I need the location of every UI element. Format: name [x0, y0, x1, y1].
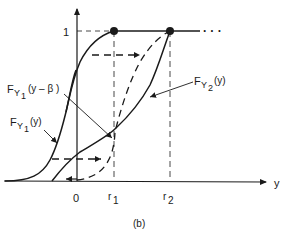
- svg-text:(y): (y): [30, 116, 42, 127]
- svg-text:Y: Y: [14, 88, 20, 98]
- svg-text:Y: Y: [201, 80, 207, 90]
- pointer-fy2-y: [150, 82, 193, 97]
- svg-text:2: 2: [168, 195, 174, 206]
- label-fy1-y: F Y 1 (y): [10, 116, 42, 134]
- svg-text:(y): (y): [214, 75, 226, 86]
- svg-text:2: 2: [208, 83, 213, 93]
- svg-text:F: F: [194, 75, 201, 87]
- svg-text:Y: Y: [17, 121, 23, 131]
- label-fy2-y: F Y 2 (y): [194, 75, 226, 93]
- label-fy1-y-minus-beta: F Y 1 (y – β ): [7, 83, 59, 101]
- x-tick-r2: r 2: [163, 191, 174, 206]
- dashed-transform-curve: [77, 31, 170, 180]
- svg-text:1: 1: [24, 124, 29, 134]
- svg-text:F: F: [7, 83, 14, 95]
- pointer-fy1-y-minus-beta: [64, 94, 112, 138]
- point-r2-level-one: [166, 27, 174, 35]
- svg-text:1: 1: [21, 91, 26, 101]
- continuation-ellipsis: · · ·: [203, 24, 222, 38]
- svg-text:r: r: [108, 191, 112, 202]
- y-tick-one: 1: [63, 26, 69, 38]
- svg-text:r: r: [163, 191, 167, 202]
- x-axis: [4, 181, 266, 182]
- curve-fy1-y-minus-beta: [66, 31, 114, 112]
- x-tick-zero: 0: [73, 192, 79, 204]
- cdf-diagram: · · · 1 0 r 1 r 2 y F Y 1 (y – β ) F Y 1…: [0, 0, 288, 234]
- figure-caption: (b): [133, 218, 145, 229]
- point-r1-level-one: [110, 27, 118, 35]
- pointer-fy1-y: [44, 130, 57, 143]
- x-axis-label: y: [274, 177, 280, 189]
- svg-text:1: 1: [113, 195, 119, 206]
- svg-text:(y – β ): (y – β ): [28, 83, 59, 94]
- x-tick-r1: r 1: [108, 191, 119, 206]
- svg-text:F: F: [10, 116, 17, 128]
